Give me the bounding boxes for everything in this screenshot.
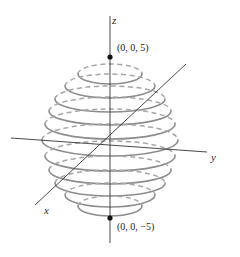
south-pole-dot (107, 215, 112, 220)
south-pole-label: (0, 0, −5) (117, 221, 154, 233)
y-axis-label: y (210, 151, 216, 163)
figure-canvas: (0, 0, 5)(0, 0, −5) z y x (0, 0, 240, 257)
north-pole-dot (107, 54, 112, 59)
axes-group (11, 16, 207, 243)
sphere-cross-sections-diagram: (0, 0, 5)(0, 0, −5) z y x (0, 0, 240, 257)
north-pole-label: (0, 0, 5) (117, 42, 149, 54)
x-axis-label: x (43, 204, 49, 216)
z-axis-label: z (111, 14, 117, 26)
